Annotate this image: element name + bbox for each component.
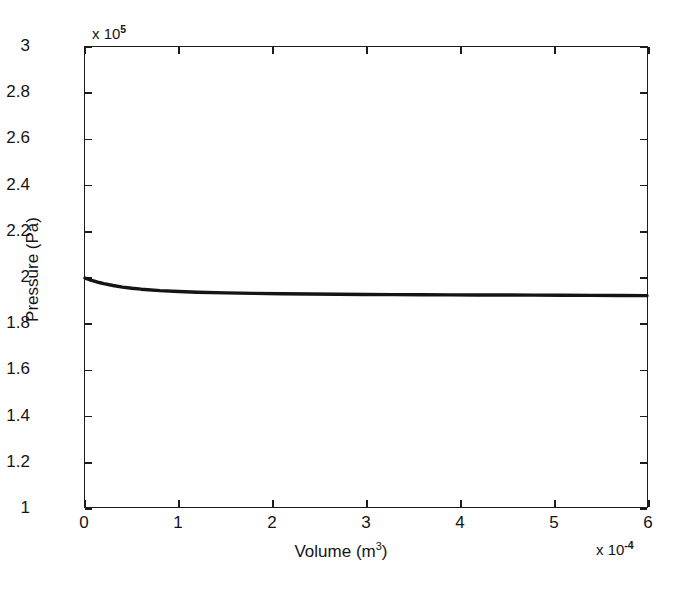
y-tick-label: 1.4	[0, 407, 30, 424]
x-axis-title: Volume (m3)	[0, 538, 682, 560]
x-tick-mark	[648, 500, 650, 507]
x-tick-label: 0	[64, 514, 104, 531]
x-tick-label: 2	[252, 514, 292, 531]
data-series-layer	[85, 47, 647, 507]
y-exponent-power: 5	[120, 23, 126, 35]
y-tick-label: 1.8	[0, 314, 30, 331]
y-axis-exponent-label: x 105	[92, 22, 126, 41]
plot-area	[84, 46, 648, 508]
y-exponent-base: x 10	[92, 25, 120, 42]
x-tick-label: 6	[628, 514, 668, 531]
x-axis-title-close: )	[382, 542, 388, 561]
y-tick-mark	[85, 508, 92, 510]
y-tick-label: 2	[0, 268, 30, 285]
y-tick-label: 2.2	[0, 222, 30, 239]
y-tick-label: 1.2	[0, 453, 30, 470]
x-axis-title-base: Volume (m	[294, 542, 375, 561]
y-tick-label: 3	[0, 37, 30, 54]
y-tick-label: 1	[0, 499, 30, 516]
pressure-volume-curve	[85, 278, 647, 295]
x-tick-label: 5	[534, 514, 574, 531]
y-tick-label: 2.8	[0, 83, 30, 100]
x-tick-mark-top	[648, 47, 650, 54]
figure-canvas: x 105 x 10-4 Pressure (Pa) Volume (m3) 3…	[0, 0, 682, 590]
x-tick-label: 4	[440, 514, 480, 531]
x-tick-label: 3	[346, 514, 386, 531]
y-tick-label: 1.6	[0, 360, 30, 377]
y-tick-label: 2.6	[0, 129, 30, 146]
y-tick-mark-right	[640, 508, 647, 510]
x-tick-label: 1	[158, 514, 198, 531]
y-tick-label: 2.4	[0, 176, 30, 193]
